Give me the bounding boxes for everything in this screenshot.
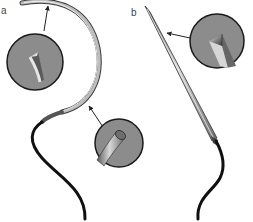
magnifier-tip-detail-b [167, 14, 244, 68]
panel-b-straight-needle [145, 6, 244, 219]
surgical-needle-diagram: a b [0, 0, 253, 222]
magnifier-tip-detail-a [7, 6, 63, 90]
diagram-artwork [0, 0, 253, 222]
magnifier-body-cross-section [89, 106, 143, 167]
panel-a-curved-needle [7, 1, 143, 219]
